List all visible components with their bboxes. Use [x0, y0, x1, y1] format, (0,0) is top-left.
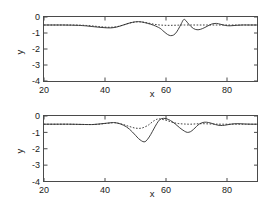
x-tick-label: 20: [39, 185, 49, 195]
y-axis-title-top: y: [14, 49, 25, 54]
x-axis-title-top: x: [150, 88, 155, 99]
x-tick-label: 20: [39, 85, 49, 95]
chart-panel-top: 204060800-1-2-3-4 y x: [0, 0, 270, 101]
y-tick-label: -2: [32, 44, 40, 54]
axis-ticks-bottom: [44, 116, 258, 182]
chart-svg-top: 204060800-1-2-3-4 y x: [0, 0, 270, 101]
x-tick-label: 40: [100, 185, 110, 195]
x-axis-title-bottom: x: [150, 188, 155, 199]
y-tick-label: -2: [32, 144, 40, 154]
figure-container: 204060800-1-2-3-4 y x 204060800-1-2-3-4 …: [0, 0, 270, 203]
y-tick-label: -1: [32, 28, 40, 38]
axis-ticks-top: [44, 17, 258, 81]
data-curve-solid-top: [44, 19, 258, 35]
y-tick-label: 0: [35, 12, 40, 22]
x-tick-label: 60: [161, 85, 171, 95]
y-tick-label: -3: [32, 160, 40, 170]
x-tick-label: 80: [222, 185, 232, 195]
x-tick-label: 60: [161, 185, 171, 195]
x-tick-label: 40: [100, 85, 110, 95]
chart-svg-bottom: 204060800-1-2-3-4 y x: [0, 100, 270, 203]
x-tick-label: 80: [222, 85, 232, 95]
plot-frame-top: [44, 17, 258, 82]
chart-panel-bottom: 204060800-1-2-3-4 y x: [0, 100, 270, 203]
y-tick-label: -4: [32, 177, 40, 187]
data-curve-solid-bottom: [44, 118, 258, 142]
data-curve-dotted-bottom: [44, 119, 258, 129]
y-tick-label: -3: [32, 60, 40, 70]
y-tick-label: -1: [32, 128, 40, 138]
y-tick-label: -4: [32, 76, 40, 86]
y-axis-title-bottom: y: [14, 148, 25, 153]
y-tick-label: 0: [35, 111, 40, 121]
